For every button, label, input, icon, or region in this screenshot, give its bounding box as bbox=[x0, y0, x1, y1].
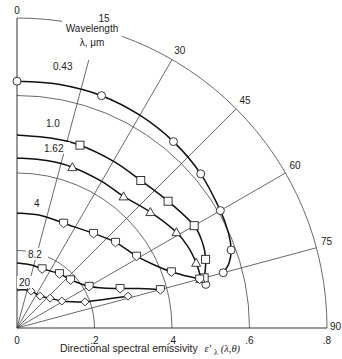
pentagon-marker bbox=[133, 252, 141, 261]
curve-lambda-1p62 bbox=[17, 158, 200, 279]
x-axis-label-main: Directional spectral emissivity bbox=[60, 342, 198, 354]
pentagon-marker bbox=[116, 284, 124, 293]
angle-tick-label-30: 30 bbox=[174, 45, 186, 56]
x-axis-label-symbol: ε' bbox=[205, 343, 212, 354]
pentagon-marker bbox=[67, 276, 75, 285]
pentagon-marker bbox=[85, 282, 93, 291]
series-label-lambda-8p2: 8.2 bbox=[28, 249, 42, 260]
radial-tick-label: .8 bbox=[323, 335, 332, 346]
angle-tick-label-75: 75 bbox=[321, 236, 333, 247]
pentagon-marker bbox=[55, 270, 63, 279]
x-axis-label-sub: λ bbox=[214, 348, 218, 357]
angle-tick-label-90: 90 bbox=[330, 321, 342, 332]
angle-tick-label-0: 0 bbox=[14, 5, 20, 16]
square-marker bbox=[137, 176, 145, 184]
angle-tick-label-15: 15 bbox=[98, 13, 110, 24]
legend: Wavelength λ, μm bbox=[62, 20, 122, 60]
series-label-lambda-1p62: 1.62 bbox=[44, 143, 64, 154]
angle-tick-label-45: 45 bbox=[239, 95, 251, 106]
diamond-marker bbox=[46, 294, 54, 302]
radial-tick-label: 0 bbox=[14, 335, 20, 346]
data-markers bbox=[13, 77, 235, 306]
pentagon-marker bbox=[156, 286, 164, 295]
radial-tick-label: .6 bbox=[245, 335, 254, 346]
legend-title-line2: λ, μm bbox=[80, 37, 105, 48]
circle-marker bbox=[197, 170, 205, 178]
circle-marker bbox=[169, 138, 177, 146]
legend-title-line1: Wavelength bbox=[66, 23, 118, 34]
circle-marker bbox=[98, 92, 106, 100]
circle-marker bbox=[13, 77, 21, 85]
series-label-lambda-0p43: 0.43 bbox=[53, 61, 73, 72]
pentagon-marker bbox=[38, 265, 46, 274]
series-label-lambda-4: 4 bbox=[34, 198, 40, 209]
diamond-marker bbox=[81, 298, 89, 306]
circle-marker bbox=[227, 246, 235, 254]
square-marker bbox=[76, 141, 84, 149]
angle-tick-label-60: 60 bbox=[289, 160, 301, 171]
triangle-marker bbox=[192, 258, 201, 266]
diamond-marker bbox=[27, 287, 35, 295]
square-marker bbox=[164, 197, 172, 205]
square-marker bbox=[190, 222, 198, 230]
pentagon-marker bbox=[112, 238, 120, 247]
triangle-marker bbox=[119, 192, 128, 200]
series-label-lambda-1p0: 1.0 bbox=[46, 118, 60, 129]
angle-spoke-75 bbox=[17, 248, 316, 328]
circle-marker bbox=[216, 207, 224, 215]
series-labels: 0.431.01.6248.220 bbox=[17, 60, 79, 288]
circle-marker bbox=[219, 269, 227, 277]
triangle-marker bbox=[146, 208, 155, 216]
angle-spoke-60 bbox=[17, 173, 285, 328]
square-marker bbox=[202, 255, 210, 263]
pentagon-marker bbox=[90, 229, 98, 238]
series-label-lambda-20: 20 bbox=[19, 277, 31, 288]
polar-emissivity-chart: Wavelength λ, μm 0.431.01.6248.220 .2.4.… bbox=[0, 0, 342, 359]
pentagon-marker bbox=[60, 219, 68, 228]
data-curves bbox=[17, 81, 231, 302]
x-axis-label: Directional spectral emissivity ε' λ (λ,… bbox=[60, 342, 241, 357]
pentagon-marker bbox=[167, 268, 175, 277]
chart-canvas: Wavelength λ, μm 0.431.01.6248.220 .2.4.… bbox=[0, 0, 342, 359]
x-axis-label-args: (λ,θ) bbox=[221, 343, 241, 355]
